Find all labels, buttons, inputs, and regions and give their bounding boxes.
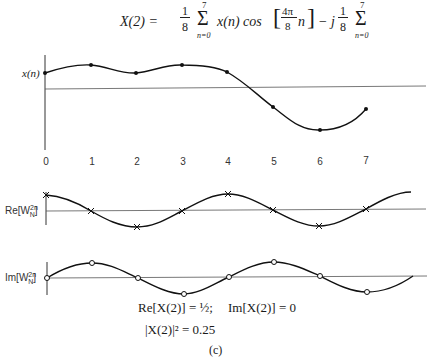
re-result: Re[X(2)] = ½; bbox=[138, 300, 213, 316]
xn-plot bbox=[43, 55, 426, 150]
im-horizontal-axis bbox=[47, 276, 427, 278]
magnitude-result: |X(2)|² = 0.25 bbox=[145, 322, 215, 338]
tick-1: 1 bbox=[89, 156, 95, 167]
figure-caption: (c) bbox=[209, 343, 222, 358]
im-plot bbox=[45, 260, 428, 297]
dft-equation-tail-2 bbox=[0, 0, 434, 46]
im-label-text: Im[W bbox=[5, 272, 28, 283]
re-label-text: Re[W bbox=[5, 205, 30, 216]
tick-0: 0 bbox=[43, 156, 49, 167]
im-label: Im[W2nN] bbox=[5, 271, 36, 285]
xn-markers bbox=[43, 63, 368, 132]
xn-horizontal-axis bbox=[45, 86, 426, 89]
tick-2: 2 bbox=[134, 156, 140, 167]
tick-3: 3 bbox=[180, 156, 186, 167]
tick-7: 7 bbox=[363, 155, 369, 166]
re-label-close: ] bbox=[35, 205, 38, 216]
tick-6: 6 bbox=[317, 156, 323, 167]
chart-canvas bbox=[0, 0, 434, 364]
xn-curve bbox=[45, 65, 366, 130]
re-horizontal-axis bbox=[46, 209, 426, 211]
tick-5: 5 bbox=[271, 156, 277, 167]
im-result: Im[X(2)] = 0 bbox=[228, 300, 296, 316]
im-label-close: ] bbox=[33, 272, 36, 283]
re-plot bbox=[43, 191, 426, 230]
re-label: Re[W2nN] bbox=[5, 204, 38, 218]
tick-4: 4 bbox=[225, 156, 231, 167]
xn-label: x(n) bbox=[22, 67, 40, 79]
